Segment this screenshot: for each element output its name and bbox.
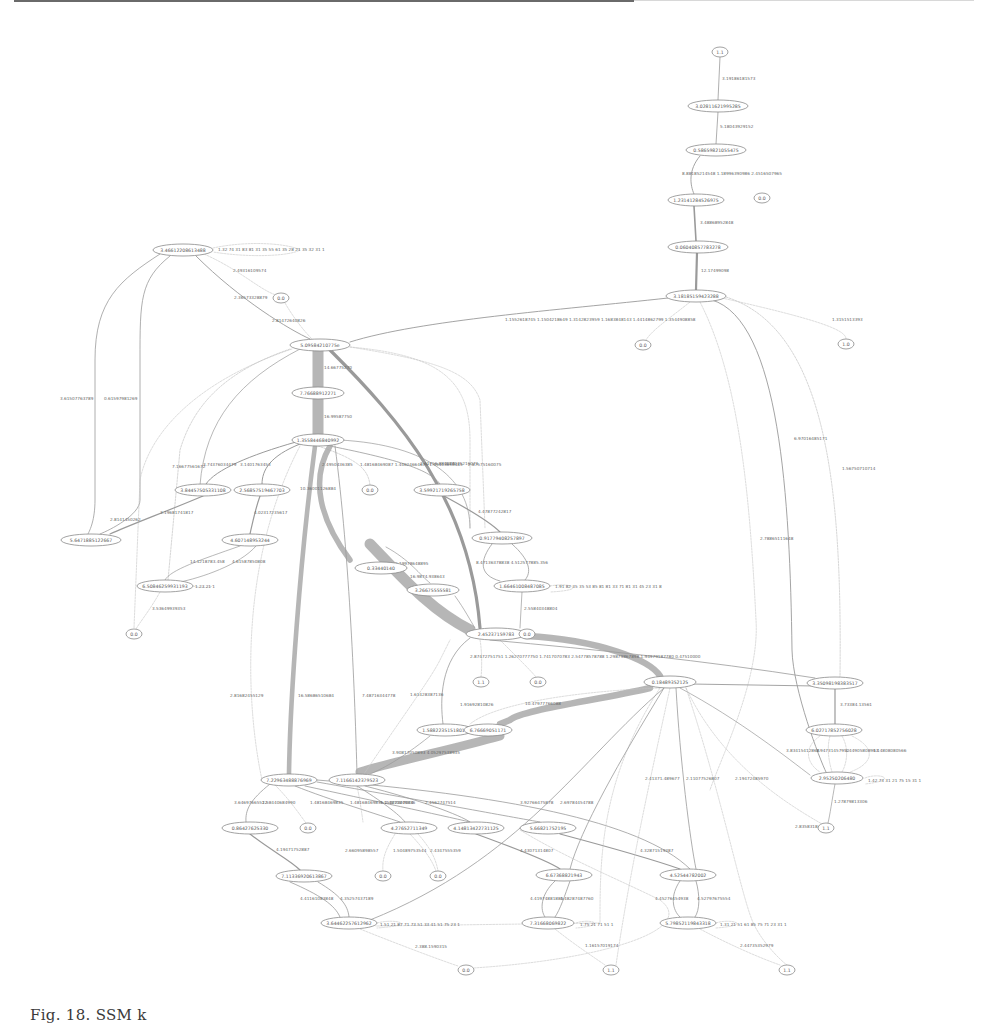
graph-node: 3.64462257612962 (321, 917, 377, 929)
graph-node: 0.18489352125 (644, 676, 696, 688)
node-label: 0.0 (523, 632, 530, 637)
edge-label: 1.91692810826 (460, 702, 494, 707)
graph-edge (850, 736, 869, 772)
node-label: 4.607148953244 (230, 538, 270, 543)
graph-node: 0.0 (430, 871, 446, 881)
node-label: 1.1 (477, 680, 484, 685)
graph-node: 2.56857519467703 (234, 484, 290, 496)
graph-edge (696, 253, 697, 290)
graph-edge (686, 688, 822, 824)
graph-node: 1.23141284526975 (668, 194, 724, 206)
edge-label: 1.50489753544 (393, 848, 427, 853)
edge-label: 1.23 21 1 (195, 584, 215, 589)
state-transition-graph: 3.191861815735.180439291528.88185214548 … (0, 0, 986, 1000)
edge-label: 1.48168469087 1.44624664675 1.4940585048… (360, 462, 463, 467)
edge-label: 1.91 82 35 35 53 85 81 81 33 71 81 31 45… (555, 584, 662, 589)
graph-node: 3.46612208613488 (153, 244, 213, 256)
edge-label: 1.15327327034 (380, 800, 414, 805)
edge-label: 7.16677561672 (172, 464, 206, 469)
graph-edge (376, 688, 660, 926)
node-label: 1.23141284526975 (673, 198, 718, 203)
graph-node: 1.1 (473, 677, 489, 687)
edge-label: 3.73384.13561 (840, 702, 872, 707)
edge-label: 4.43071314807 (520, 848, 554, 853)
node-label: 2.45237159783 (478, 632, 515, 637)
node-label: 5.6471885122667 (70, 538, 112, 543)
edge-label: 1.51 21 87 71 73 51 33 41 51 75 23 1 (380, 922, 460, 927)
graph-node: 6.02717852756028 (806, 724, 862, 736)
graph-node: 1.1 (779, 965, 795, 975)
node-label: 0.58659821055475 (693, 148, 738, 153)
edge-label: 2.4562747514 (425, 800, 456, 805)
graph-node: 4.14813422731125 (448, 822, 504, 834)
edge-label: 3.61507763789 (60, 396, 94, 401)
graph-edge (442, 638, 470, 724)
node-label: 5.79852119843318 (665, 921, 710, 926)
edge-label: 2.66095898557 (345, 848, 379, 853)
graph-node: 3.84457505331108 (175, 484, 231, 496)
graph-edge (718, 57, 720, 100)
edge-label: 14.66775270 (324, 365, 352, 370)
graph-node: 1.1 (712, 47, 728, 57)
edge-label: 1.75 21 71 51 1 (580, 922, 614, 927)
node-label: 7.31668069822 (530, 921, 567, 926)
edge-label: 3.19681741817 (160, 510, 194, 515)
graph-node: 0.0 (273, 293, 289, 303)
graph-edge (250, 834, 300, 870)
node-label: 7.22963488876969 (266, 778, 311, 783)
node-label: 7.1166142379523 (336, 778, 378, 783)
edge-label: 2.4950436385 (322, 462, 353, 467)
node-label: 1.58822351518017 (422, 728, 467, 733)
node-label: 0.0 (379, 874, 386, 879)
graph-node: 4.52544782002 (660, 869, 716, 881)
graph-edge (842, 736, 847, 772)
edge-label: 2.4347555359 (430, 848, 461, 853)
graph-node: 6.76669051171 (464, 724, 512, 736)
edge-label: 2.41371.489677 (645, 776, 680, 781)
edge-label: 4.47877242817 (478, 509, 512, 514)
edge-label: 8.88185214548 1.18996390986 2.4516507965 (682, 171, 782, 176)
edge-label: 3.92766475878 (520, 800, 554, 805)
edge-label: 4.19471752887 (276, 847, 310, 852)
edge-label: 2.87472751751 1.26270777750 1.7417070783… (470, 654, 701, 659)
graph-node: 5.6471885122667 (61, 534, 121, 546)
node-label: 7.11336920613867 (281, 874, 326, 879)
edge-label: 1.31 21 51 61 85 75 71 23 31 1 (720, 922, 787, 927)
edge-label: 7.48716344778 (362, 693, 396, 698)
edge-label: 1.1552618745 1.1504218649 1.3142823959 1… (505, 317, 696, 322)
node-label: 3.02811621995285 (695, 104, 740, 109)
graph-edge (88, 254, 160, 534)
node-label: 0.0 (434, 874, 441, 879)
node-label: 0.0 (130, 632, 137, 637)
node-label: 1.1 (607, 968, 614, 973)
node-label: 3.64462257612962 (326, 921, 371, 926)
edge-label: 4.35257437189 (340, 896, 374, 901)
graph-edge (716, 112, 718, 144)
graph-node: 0.86427625330 (222, 822, 278, 834)
graph-node: 0.0 (362, 485, 378, 495)
node-label: 1.1 (822, 826, 829, 831)
edge-label: 12.17499098 (701, 268, 729, 273)
edge-label: 2.87575160075 (468, 462, 502, 467)
node-label: 1.1 (783, 968, 790, 973)
edge-label: 2.49316109574 (233, 268, 267, 273)
graph-edge (690, 684, 815, 686)
graph-node: 3.26675555581 (407, 584, 459, 596)
node-label: 0.0 (534, 680, 541, 685)
graph-node: 0.58659821055475 (686, 144, 746, 156)
edge-label: 2.8141450262 (110, 517, 141, 522)
graph-node: 3.02811621995285 (688, 100, 748, 112)
edge-label: 1.48168469835 (310, 800, 344, 805)
node-label: 6.67368821943 (546, 873, 583, 878)
node-label: 1.3558446840992 (297, 438, 339, 443)
node-label: 2.95250206480 (819, 776, 856, 781)
graph-node: 0.0 (375, 871, 391, 881)
node-label: 4.14813422731125 (453, 826, 498, 831)
graph-node: 5.79852119843318 (660, 917, 716, 929)
graph-node: 1.3558446840992 (292, 434, 344, 446)
graph-node: 7.22963488876969 (261, 774, 317, 786)
edge-label: 4.32871519387 (640, 848, 674, 853)
node-label: 0.0 (639, 343, 646, 348)
graph-edge (110, 496, 203, 534)
node-label: 1.0 (842, 342, 849, 347)
